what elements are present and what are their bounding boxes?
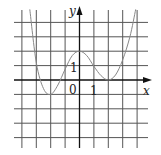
- x-axis-label: x: [143, 84, 150, 98]
- x-axis-arrow-icon: [143, 77, 152, 83]
- function-graph: y x 0 1 1: [0, 0, 161, 155]
- origin-label: 0: [69, 83, 77, 97]
- x-unit-label: 1: [90, 84, 98, 98]
- grid-lines: [14, 10, 148, 148]
- y-axis-arrow-icon: [77, 6, 83, 15]
- axes: [14, 6, 152, 148]
- y-axis-label: y: [68, 4, 76, 18]
- y-unit-label: 1: [70, 61, 78, 75]
